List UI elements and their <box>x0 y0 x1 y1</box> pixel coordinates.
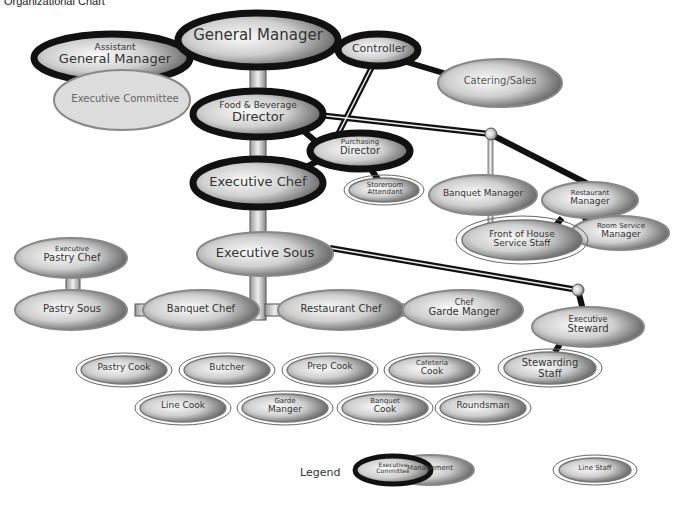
node-prep-cook: Prep Cook <box>288 362 372 371</box>
node-restaurant-manager: RestaurantManager <box>545 190 635 207</box>
node-banquet-chef: Banquet Chef <box>148 304 254 315</box>
node-pastry-sous: Pastry Sous <box>20 304 124 315</box>
node-cafeteria-cook: CafeteriaCook <box>390 360 474 377</box>
legend-label: Legend <box>300 466 340 479</box>
node-room-service-manager: Room ServiceManager <box>575 223 667 240</box>
legend-management: Management <box>395 465 465 472</box>
node-executive-committee: Executive Committee <box>60 94 190 105</box>
node-executive-sous: Executive Sous <box>200 246 330 260</box>
node-restaurant-chef: Restaurant Chef <box>280 304 402 315</box>
node-assistant-gm: AssistantGeneral Manager <box>40 43 190 66</box>
node-roundsman: Roundsman <box>441 401 525 410</box>
node-garde-manger: GardeManger <box>243 398 327 415</box>
node-banquet-cook: BanquetCook <box>343 398 427 415</box>
node-general-manager: General Manager <box>180 28 336 44</box>
node-fb-director: Food & BeverageDirector <box>200 101 316 124</box>
node-purchasing-director: PurchasingDirector <box>315 139 405 157</box>
node-executive-chef: Executive Chef <box>195 175 321 189</box>
legend-line-staff: Line Staff <box>560 465 630 472</box>
node-executive-steward: ExecutiveSteward <box>535 316 641 335</box>
node-banquet-manager: Banquet Manager <box>430 189 536 198</box>
node-catering-sales: Catering/Sales <box>440 76 560 87</box>
node-line-cook: Line Cook <box>141 401 225 410</box>
node-butcher: Butcher <box>185 363 269 372</box>
node-front-of-house: Front of HouseService Staff <box>470 230 574 249</box>
node-pastry-cook: Pastry Cook <box>82 363 166 372</box>
node-chef-garde-manger: ChefGarde Manger <box>408 299 520 318</box>
node-executive-pastry-chef: ExecutivePastry Chef <box>20 246 124 264</box>
node-storeroom-attendant: StoreroomAttendant <box>350 182 420 197</box>
node-controller: Controller <box>340 43 418 55</box>
node-stewarding-staff: StewardingStaff <box>505 358 595 379</box>
